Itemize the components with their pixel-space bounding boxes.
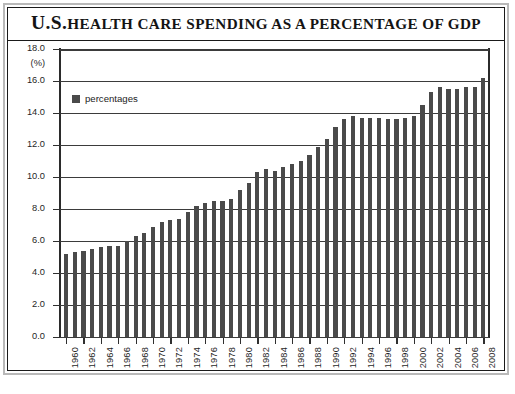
x-tick-label-1966: 1966 — [122, 347, 132, 368]
y-tick-16.0 — [53, 81, 60, 82]
y-tick-0.0 — [53, 337, 60, 338]
y-tick-label-18.0: 18.0 — [5, 43, 45, 53]
x-tick-1978 — [223, 338, 224, 344]
bar-2007 — [473, 87, 477, 337]
bar-1972 — [168, 220, 172, 337]
bar-1986 — [290, 164, 294, 337]
x-tick-label-1970: 1970 — [157, 347, 167, 368]
bar-1976 — [203, 203, 207, 337]
bar-1964 — [99, 247, 103, 337]
y-tick-label-16.0: 16.0 — [5, 75, 45, 85]
bar-1992 — [342, 119, 346, 337]
chart-title-lead: U.S. — [31, 12, 67, 33]
bar-1999 — [403, 118, 407, 337]
bar-1971 — [160, 222, 164, 337]
x-tick-label-1990: 1990 — [331, 347, 341, 368]
bar-1974 — [186, 212, 190, 337]
x-tick-label-2008: 2008 — [487, 347, 497, 368]
bar-1985 — [281, 167, 285, 337]
bar-2001 — [420, 105, 424, 337]
bar-1969 — [142, 233, 146, 337]
x-tick-label-1992: 1992 — [348, 347, 358, 368]
x-tick-2008 — [483, 338, 484, 344]
x-tick-1986 — [292, 338, 293, 344]
x-tick-label-1972: 1972 — [174, 347, 184, 368]
bar-2008 — [481, 78, 485, 337]
bar-1967 — [125, 241, 129, 337]
bar-1970 — [151, 227, 155, 337]
x-tick-label-2004: 2004 — [453, 347, 463, 368]
x-tick-1970 — [153, 338, 154, 344]
chart-title-rest: Health Care Spending as a Percentage of … — [67, 15, 481, 32]
x-tick-label-1976: 1976 — [209, 347, 219, 368]
y-tick-label-10.0: 10.0 — [5, 171, 45, 181]
chart-title: U.S.Health Care Spending as a Percentage… — [8, 12, 504, 34]
x-tick-1960 — [66, 338, 67, 344]
bar-1988 — [307, 155, 311, 337]
x-tick-1998 — [396, 338, 397, 344]
x-tick-1968 — [136, 338, 137, 344]
bar-1997 — [386, 119, 390, 337]
x-tick-1966 — [118, 338, 119, 344]
x-tick-label-1978: 1978 — [227, 347, 237, 368]
x-tick-label-1986: 1986 — [296, 347, 306, 368]
y-tick-2.0 — [53, 305, 60, 306]
x-tick-label-1974: 1974 — [192, 347, 202, 368]
x-tick-label-1982: 1982 — [261, 347, 271, 368]
y-tick-12.0 — [53, 145, 60, 146]
x-tick-label-1994: 1994 — [366, 347, 376, 368]
y-tick-label-12.0: 12.0 — [5, 139, 45, 149]
y-tick-14.0 — [53, 113, 60, 114]
gridline-14.0 — [60, 113, 489, 114]
bar-1998 — [394, 119, 398, 337]
y-tick-label-14.0: 14.0 — [5, 107, 45, 117]
y-tick-8.0 — [53, 209, 60, 210]
chart-figure: U.S.Health Care Spending as a Percentage… — [0, 0, 515, 394]
bar-1966 — [116, 246, 120, 337]
bar-1994 — [360, 118, 364, 337]
x-tick-1996 — [379, 338, 380, 344]
bar-1982 — [255, 172, 259, 337]
bar-2004 — [446, 89, 450, 337]
y-tick-label-4.0: 4.0 — [5, 267, 45, 277]
x-tick-label-2000: 2000 — [418, 347, 428, 368]
x-tick-1992 — [344, 338, 345, 344]
x-tick-label-1962: 1962 — [87, 347, 97, 368]
x-tick-1994 — [362, 338, 363, 344]
bar-1979 — [229, 199, 233, 337]
legend-label-percentages: percentages — [85, 93, 138, 104]
bar-1978 — [220, 201, 224, 337]
x-tick-1964 — [101, 338, 102, 344]
y-tick-18.0 — [53, 49, 60, 50]
x-tick-1984 — [275, 338, 276, 344]
bar-1960 — [64, 254, 68, 337]
x-tick-label-1996: 1996 — [383, 347, 393, 368]
bar-1963 — [90, 249, 94, 337]
bar-1977 — [212, 201, 216, 337]
x-tick-1962 — [83, 338, 84, 344]
x-tick-1988 — [309, 338, 310, 344]
x-tick-label-1964: 1964 — [105, 347, 115, 368]
x-tick-1980 — [240, 338, 241, 344]
bar-1984 — [273, 171, 277, 337]
x-tick-label-1980: 1980 — [244, 347, 254, 368]
chart-legend: percentages — [72, 93, 138, 104]
title-divider — [8, 40, 505, 41]
bar-1983 — [264, 169, 268, 337]
x-tick-label-1988: 1988 — [313, 347, 323, 368]
bar-1981 — [247, 183, 251, 337]
y-tick-4.0 — [53, 273, 60, 274]
x-tick-label-1984: 1984 — [279, 347, 289, 368]
x-tick-1982 — [257, 338, 258, 344]
x-tick-label-2002: 2002 — [435, 347, 445, 368]
bar-2002 — [429, 92, 433, 337]
x-tick-2000 — [414, 338, 415, 344]
y-tick-label-0.0: 0.0 — [5, 331, 45, 341]
bar-1968 — [134, 236, 138, 337]
x-tick-label-1960: 1960 — [70, 347, 80, 368]
y-tick-label-2.0: 2.0 — [5, 299, 45, 309]
x-tick-1976 — [205, 338, 206, 344]
bar-1990 — [325, 139, 329, 337]
bar-1962 — [81, 251, 85, 337]
bar-1991 — [333, 127, 337, 337]
